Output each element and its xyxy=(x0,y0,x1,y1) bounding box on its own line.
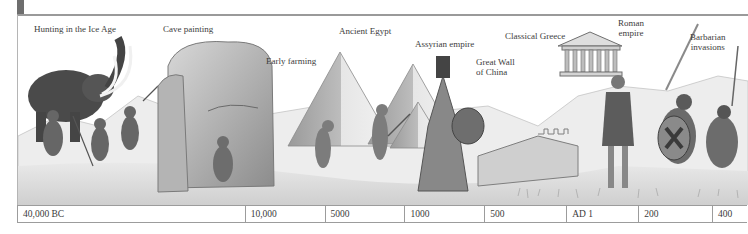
timeline-cell: AD 1 xyxy=(567,206,639,222)
history-illustration xyxy=(18,16,748,205)
label-cave-painting: Cave painting xyxy=(163,24,213,34)
timeline-cell: 500 xyxy=(485,206,567,222)
timeline-cell: 200 xyxy=(639,206,713,222)
greek-temple xyxy=(558,32,622,76)
label-roman-empire: Roman empire xyxy=(618,18,644,38)
timeline-bar: 40,000 BC 10,000 5000 1000 500 AD 1 200 … xyxy=(17,205,747,223)
cave-rock xyxy=(158,42,274,193)
label-barbarian-invasions: Barbarian invasions xyxy=(690,32,725,52)
label-assyrian-empire: Assyrian empire xyxy=(415,39,474,49)
timeline-cell: 1000 xyxy=(405,206,485,222)
timeline-cell: 400 xyxy=(713,206,747,222)
accent-bar xyxy=(17,0,24,15)
label-great-wall: Great Wall of China xyxy=(476,57,515,77)
timeline-cell: 10,000 xyxy=(246,206,326,222)
label-early-farming: Early farming xyxy=(266,56,316,66)
label-ancient-egypt: Ancient Egypt xyxy=(339,26,391,36)
timeline-cell: 40,000 BC xyxy=(18,206,246,222)
label-classical-greece: Classical Greece xyxy=(505,31,565,41)
label-ice-age: Hunting in the Ice Age xyxy=(34,24,116,34)
timeline-cell: 5000 xyxy=(326,206,406,222)
